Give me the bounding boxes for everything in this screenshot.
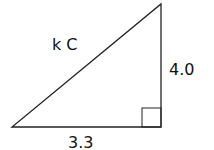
right-triangle <box>12 4 161 127</box>
right-angle-marker <box>142 108 161 127</box>
vertical-side-label: 4.0 <box>169 60 194 79</box>
triangle-diagram: k C 4.0 3.3 <box>0 0 214 150</box>
hypotenuse-label: k C <box>52 35 78 54</box>
horizontal-side-label: 3.3 <box>68 133 93 150</box>
